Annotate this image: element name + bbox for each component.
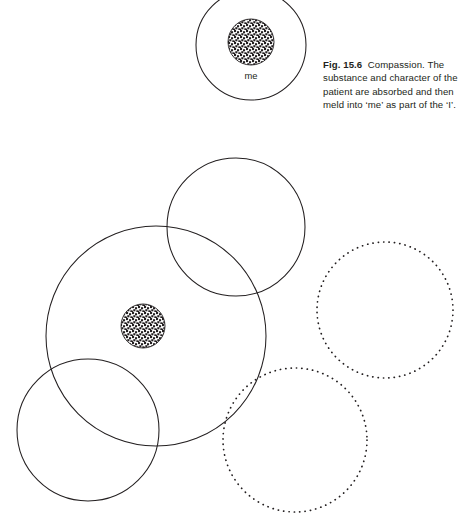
stipple-core-main: [121, 304, 165, 348]
patient-absorbed-upper-right-circle: [167, 158, 305, 296]
patient-absorbed-lower-left-circle: [17, 359, 159, 501]
figure-caption: Fig. 15.6 Compassion. The substance and …: [323, 58, 473, 112]
me-label: me: [230, 70, 272, 81]
stipple-core-top: [228, 19, 274, 65]
patient-separate-upper-right-circle: [317, 242, 453, 378]
patient-separate-lower-circle: [223, 368, 367, 512]
figure-page: me Fig. 15.6 Compassion. The substance a…: [0, 0, 475, 515]
figure-caption-label: Fig. 15.6: [323, 59, 362, 70]
